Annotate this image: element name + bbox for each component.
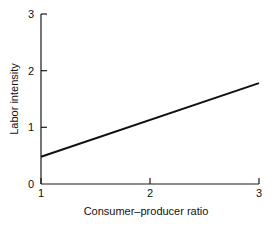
y-tick-label-3: 3 bbox=[28, 8, 34, 20]
x-tick-label-2: 2 bbox=[147, 187, 153, 199]
y-tick-label-1: 1 bbox=[28, 121, 34, 133]
x-tick-label-3: 3 bbox=[256, 187, 262, 199]
x-tick-label-1: 1 bbox=[38, 187, 44, 199]
x-axis-title: Consumer–producer ratio bbox=[84, 205, 209, 217]
y-tick-label-0: 0 bbox=[28, 178, 34, 190]
y-axis-title: Labor intensity bbox=[8, 63, 20, 135]
line-chart: 3 2 1 0 1 2 3 Consumer–producer ratio La… bbox=[0, 0, 276, 229]
chart-figure: 3 2 1 0 1 2 3 Consumer–producer ratio La… bbox=[0, 0, 276, 229]
y-tick-label-2: 2 bbox=[28, 65, 34, 77]
